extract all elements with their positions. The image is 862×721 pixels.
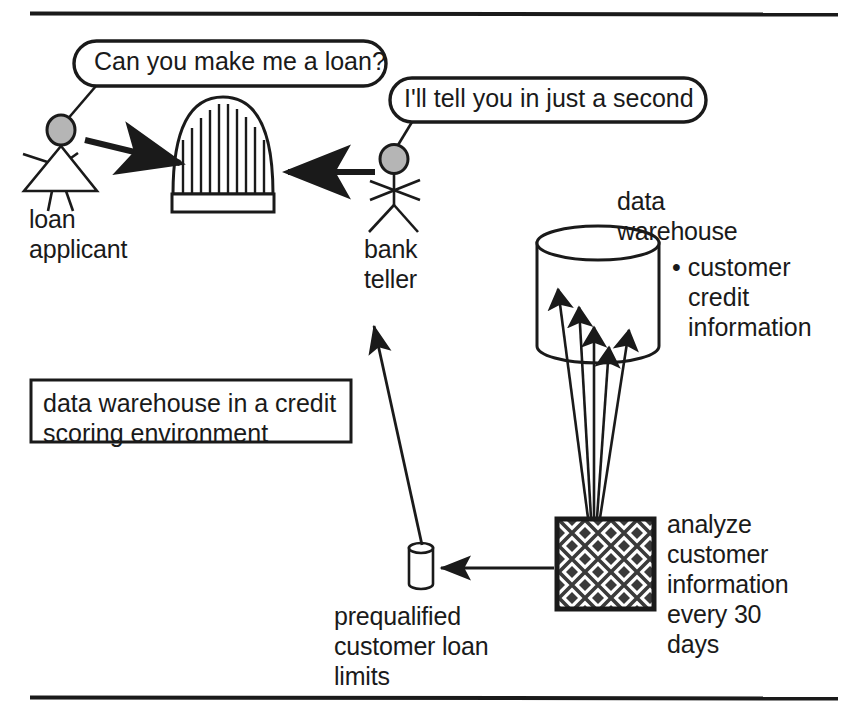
arrow-prequalified-to-teller [374, 326, 422, 545]
bank-building [172, 97, 274, 212]
bottom-rule [30, 698, 838, 699]
loan-applicant-label: loan applicant [29, 204, 127, 264]
speech-bubble-applicant-text: Can you make me a loan? [94, 47, 386, 75]
arrow-applicant-to-bank [85, 140, 180, 163]
data-warehouse-contents-label: • customer credit information [672, 252, 812, 342]
loan-applicant-figure [23, 115, 97, 211]
analyze-process-box [557, 519, 654, 609]
diagram-canvas: Can you make me a loan? I'll tell you in… [0, 0, 862, 721]
prequalified-store-label: prequalified customer loan limits [334, 601, 488, 691]
prequalified-cylinder [409, 543, 433, 589]
top-rule [30, 14, 838, 15]
data-warehouse-cylinder [537, 226, 659, 363]
speech-bubble-teller-text: I'll tell you in just a second [404, 84, 694, 112]
bank-teller-figure [369, 145, 420, 233]
bank-teller-label: bank teller [364, 234, 417, 294]
data-warehouse-label: data warehouse [617, 186, 738, 246]
analyze-process-label: analyze customer information every 30 da… [667, 509, 788, 659]
figure-caption: data warehouse in a credit scoring envir… [43, 388, 336, 448]
